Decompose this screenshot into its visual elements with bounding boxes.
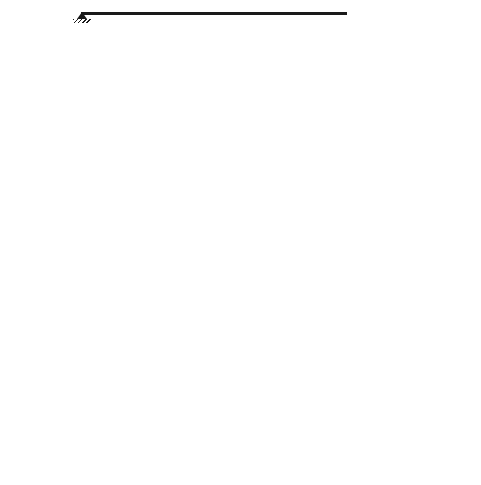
beam-full — [81, 12, 347, 15]
left-ground-hatch — [73, 19, 91, 23]
